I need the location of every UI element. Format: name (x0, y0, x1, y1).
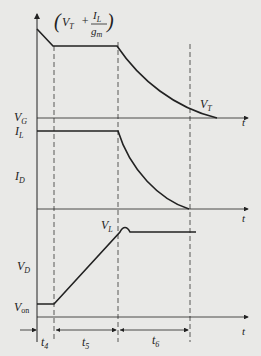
switching-timing-diagram: ( VT + IL gm ) VG t VT IL ID t VL VD Von… (0, 0, 261, 356)
von-label: Von (14, 300, 29, 315)
id-waveform (37, 131, 189, 209)
svg-text:): ) (106, 10, 114, 33)
plateau-annotation: ( VT + IL gm ) (54, 9, 114, 39)
t5-label: t5 (82, 335, 89, 351)
svg-text:+: + (81, 14, 89, 28)
il-label: IL (14, 124, 24, 140)
vt-label: VT (200, 97, 212, 113)
svg-text:gm: gm (91, 25, 103, 39)
svg-text:IL: IL (92, 9, 102, 24)
vd-axis-t: t (242, 325, 246, 337)
t6-label: t6 (152, 333, 159, 349)
id-label: ID (14, 169, 25, 185)
svg-text:(: ( (54, 10, 62, 33)
t4-label: t4 (41, 335, 48, 351)
vd-label: VD (17, 259, 30, 275)
vl-label: VL (101, 218, 113, 234)
vd-waveform (37, 228, 196, 305)
id-axis-t: t (242, 212, 246, 224)
svg-text:VT: VT (62, 15, 74, 31)
